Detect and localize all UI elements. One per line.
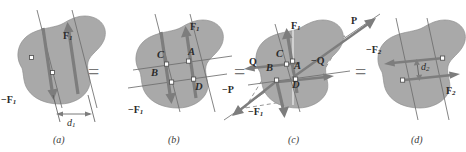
panel-b-point-dot-b — [170, 80, 174, 84]
panel-b-label-neg-f1: −F1 — [128, 105, 143, 116]
panel-d-point-dot-upper — [441, 56, 445, 60]
panel-b-label-point-d: D — [195, 82, 203, 93]
panel-b-label-point-b: B — [151, 68, 158, 79]
panel-a-label-neg-f1: −F1 — [1, 95, 16, 106]
panel-a-dim-d1-head-right — [85, 111, 92, 116]
panel-c-label-point-d: D — [292, 80, 300, 91]
panel-a-point-dot-right — [51, 71, 55, 75]
panel-c-force-neg-q-head — [323, 73, 334, 80]
equals-sign-2: = — [234, 62, 245, 82]
panel-c-label-point-a: A — [294, 61, 301, 72]
panel-b-point-dot-a — [187, 59, 191, 63]
panel-a-point-dot-left — [30, 56, 34, 60]
panel-c-label-neg-p: −P — [222, 85, 234, 95]
panel-c-label-q: Q — [249, 57, 257, 67]
equals-sign-1: = — [88, 62, 99, 82]
equals-sign-3: = — [355, 62, 366, 82]
panel-b-label-point-a: A — [188, 47, 195, 58]
panel-d-force-f2-head — [449, 71, 460, 78]
panel-d-label-f2: F2 — [446, 86, 456, 97]
panel-d-caption: (d) — [411, 135, 423, 145]
panel-c-force-neg-f1-head — [279, 107, 290, 119]
panel-b-graphics — [128, 14, 232, 112]
panel-d-point-dot-lower — [401, 78, 405, 82]
panel-c-label-p: P — [351, 16, 357, 26]
panel-c-resultant-neg-p-head — [232, 105, 244, 116]
panel-d-label-d2: d2 — [421, 62, 430, 73]
panel-c-point-dot-b — [275, 78, 279, 82]
panel-d-label-neg-f2: −F2 — [366, 45, 381, 56]
panel-a-label-d1: d1 — [67, 118, 76, 129]
panel-c-point-dot-c — [285, 62, 289, 66]
panel-c-label-f1: F1 — [291, 21, 301, 32]
panel-a-dim-ext-right — [88, 95, 95, 122]
panel-b-caption: (b) — [168, 135, 180, 145]
figure-root: = = = F1 −F1 d1 (a) F1 −F1 C A B D (b) F… — [0, 0, 466, 152]
panel-a-caption: (a) — [53, 135, 65, 145]
panel-b-point-dot-c — [165, 62, 169, 66]
panel-b-label-f1: F1 — [190, 22, 200, 33]
panel-c-label-point-b: B — [266, 63, 273, 74]
panel-c-label-point-c: C — [276, 49, 283, 60]
panel-c-label-neg-f1: −F1 — [248, 107, 263, 118]
panel-a-label-f1: F1 — [63, 31, 73, 42]
panel-c-caption: (c) — [288, 135, 299, 145]
panel-c-label-neg-q: −Q — [311, 56, 324, 66]
panel-b-label-point-c: C — [157, 50, 164, 61]
